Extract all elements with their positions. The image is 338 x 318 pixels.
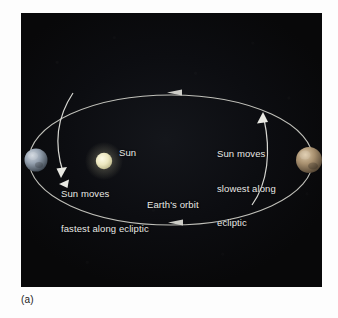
earth-left-globe: [25, 149, 48, 172]
figure-caption: (a): [21, 294, 34, 305]
earth-left-surface-mark-2: [35, 162, 43, 168]
sky-panel: Sun Sun moves fastest along ecliptic Sun…: [21, 13, 322, 287]
earth-orbit-label: Earth's orbit: [147, 199, 199, 211]
perihelion-annotation-line-1: Sun moves: [61, 188, 149, 200]
aphelion-annotation: Sun moves slowest along ecliptic: [217, 125, 276, 252]
right-motion-arrowhead: [257, 112, 268, 124]
earth-right-surface-mark: [300, 151, 311, 160]
left-motion-arrow-curve: [58, 93, 73, 172]
aphelion-annotation-line-2: slowest along: [217, 183, 276, 195]
aphelion-annotation-line-3: ecliptic: [217, 217, 276, 229]
perihelion-annotation: Sun moves fastest along ecliptic: [61, 165, 149, 257]
sun-label: Sun: [119, 147, 136, 159]
earth-left-surface-mark: [28, 152, 38, 160]
earth-right-surface-mark-2: [308, 163, 318, 170]
perihelion-annotation-line-2: fastest along ecliptic: [61, 223, 149, 235]
earth-right-globe: [296, 147, 322, 173]
aphelion-annotation-line-1: Sun moves: [217, 148, 276, 160]
figure-root: Sun Sun moves fastest along ecliptic Sun…: [0, 0, 338, 318]
